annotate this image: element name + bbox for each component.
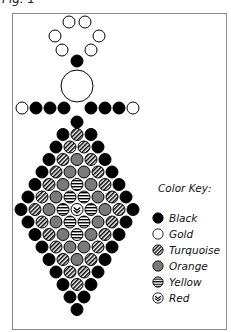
black-bead xyxy=(92,266,104,278)
black-bead xyxy=(57,279,69,291)
turquoise-bead xyxy=(92,166,104,178)
black-bead xyxy=(36,166,48,178)
orange-bead xyxy=(153,261,163,271)
turquoise-bead xyxy=(50,241,62,253)
orange-bead xyxy=(99,204,111,216)
turquoise-bead xyxy=(85,154,97,166)
color-key-item-red: Red xyxy=(148,290,228,306)
black-bead xyxy=(29,179,41,191)
color-key-item-black: Black xyxy=(148,210,228,226)
gold-swatch-icon xyxy=(152,228,164,240)
color-key-label: Gold xyxy=(169,228,193,240)
turquoise-bead xyxy=(92,241,104,253)
orange-swatch-icon xyxy=(152,260,164,272)
turquoise-bead xyxy=(36,191,48,203)
black-bead xyxy=(120,191,132,203)
orange-bead xyxy=(57,229,69,241)
color-key-title: Color Key: xyxy=(158,182,228,194)
black-bead xyxy=(50,141,62,153)
turquoise-bead xyxy=(43,179,55,191)
color-key-label: Yellow xyxy=(169,276,202,288)
turquoise-bead xyxy=(113,204,125,216)
orange-bead xyxy=(50,216,62,228)
black-bead xyxy=(127,204,139,216)
orange-bead xyxy=(50,191,62,203)
yellow-swatch-icon xyxy=(152,276,164,288)
black-bead xyxy=(113,102,125,114)
black-bead xyxy=(71,304,83,316)
black-bead xyxy=(30,102,42,114)
orange-bead xyxy=(71,254,83,266)
turquoise-bead xyxy=(64,266,76,278)
color-key-label: Turquoise xyxy=(169,244,220,256)
black-bead xyxy=(99,154,111,166)
yellow-bead xyxy=(78,191,90,203)
black-bead xyxy=(113,229,125,241)
black-bead xyxy=(22,191,34,203)
black-bead xyxy=(29,229,41,241)
red-bead xyxy=(71,204,83,216)
black-bead xyxy=(58,102,70,114)
color-key: Color Key: BlackGoldTurquoiseOrangeYello… xyxy=(148,182,228,306)
turquoise-bead xyxy=(71,279,83,291)
turquoise-bead xyxy=(57,154,69,166)
black-bead xyxy=(43,154,55,166)
gold-bead xyxy=(61,70,93,102)
gold-bead xyxy=(153,229,163,239)
yellow-bead xyxy=(64,216,76,228)
color-key-item-orange: Orange xyxy=(148,258,228,274)
orange-bead xyxy=(92,216,104,228)
turquoise-bead xyxy=(78,266,90,278)
orange-bead xyxy=(43,204,55,216)
gold-bead xyxy=(49,30,61,42)
yellow-bead xyxy=(57,204,69,216)
orange-bead xyxy=(64,166,76,178)
black-bead xyxy=(99,102,111,114)
red-bead xyxy=(153,293,163,303)
black-bead xyxy=(44,102,56,114)
orange-bead xyxy=(57,179,69,191)
black-bead xyxy=(99,254,111,266)
turquoise-bead xyxy=(36,216,48,228)
black-bead xyxy=(15,204,27,216)
black-bead xyxy=(78,291,90,303)
black-bead xyxy=(22,216,34,228)
turquoise-bead xyxy=(43,229,55,241)
black-bead xyxy=(50,266,62,278)
black-bead xyxy=(85,129,97,141)
yellow-bead xyxy=(85,204,97,216)
turquoise-bead xyxy=(71,129,83,141)
gold-bead xyxy=(85,44,97,56)
yellow-bead xyxy=(71,179,83,191)
color-key-label: Black xyxy=(169,212,197,224)
gold-bead xyxy=(63,16,75,28)
yellow-bead xyxy=(153,277,163,287)
black-bead xyxy=(57,129,69,141)
gold-bead xyxy=(93,30,105,42)
black-bead xyxy=(106,166,118,178)
turquoise-swatch-icon xyxy=(152,244,164,256)
red-swatch-icon xyxy=(152,292,164,304)
bead-group xyxy=(15,16,139,316)
turquoise-bead xyxy=(78,141,90,153)
orange-bead xyxy=(85,229,97,241)
black-bead xyxy=(36,241,48,253)
black-bead xyxy=(85,102,97,114)
orange-bead xyxy=(64,241,76,253)
yellow-bead xyxy=(71,229,83,241)
turquoise-bead xyxy=(64,141,76,153)
black-bead xyxy=(43,254,55,266)
yellow-bead xyxy=(64,191,76,203)
turquoise-bead xyxy=(50,166,62,178)
color-key-item-gold: Gold xyxy=(148,226,228,242)
black-bead xyxy=(153,213,163,223)
turquoise-bead xyxy=(153,245,163,255)
black-bead xyxy=(113,179,125,191)
black-swatch-icon xyxy=(152,212,164,224)
turquoise-bead xyxy=(57,254,69,266)
black-bead xyxy=(71,116,83,128)
black-bead xyxy=(92,141,104,153)
gold-bead xyxy=(127,102,139,114)
orange-bead xyxy=(71,154,83,166)
turquoise-bead xyxy=(106,191,118,203)
